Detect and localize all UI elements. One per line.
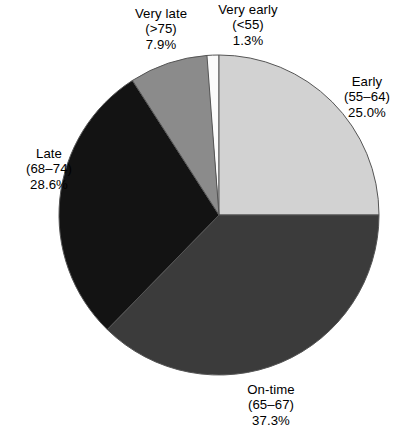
slice-label-very-late-name: Very late	[118, 6, 204, 21]
slice-label-very-late-range: (>75)	[118, 21, 204, 36]
slice-label-late-name: Late	[6, 146, 92, 161]
slice-label-on-time: On-time (65–67) 37.3%	[228, 382, 314, 428]
slice-label-early-value: 25.0%	[326, 105, 408, 120]
slice-label-on-time-range: (65–67)	[228, 397, 314, 412]
slice-label-on-time-value: 37.3%	[228, 413, 314, 428]
slice-label-very-late: Very late (>75) 7.9%	[118, 6, 204, 52]
slice-label-late: Late (68–74) 28.6%	[6, 146, 92, 192]
pie-chart-svg	[0, 0, 411, 443]
slice-label-early: Early (55–64) 25.0%	[326, 74, 408, 120]
slice-label-late-value: 28.6%	[6, 177, 92, 192]
slice-label-early-name: Early	[326, 74, 408, 89]
slice-label-very-early: Very early (<55) 1.3%	[205, 2, 291, 48]
slice-label-on-time-name: On-time	[228, 382, 314, 397]
slice-label-very-early-value: 1.3%	[205, 33, 291, 48]
slice-label-very-early-range: (<55)	[205, 17, 291, 32]
slice-label-early-range: (55–64)	[326, 89, 408, 104]
slice-label-very-late-value: 7.9%	[118, 37, 204, 52]
slice-label-late-range: (68–74)	[6, 161, 92, 176]
pie-chart-figure: Very late (>75) 7.9% Very early (<55) 1.…	[0, 0, 411, 443]
slice-label-very-early-name: Very early	[205, 2, 291, 17]
